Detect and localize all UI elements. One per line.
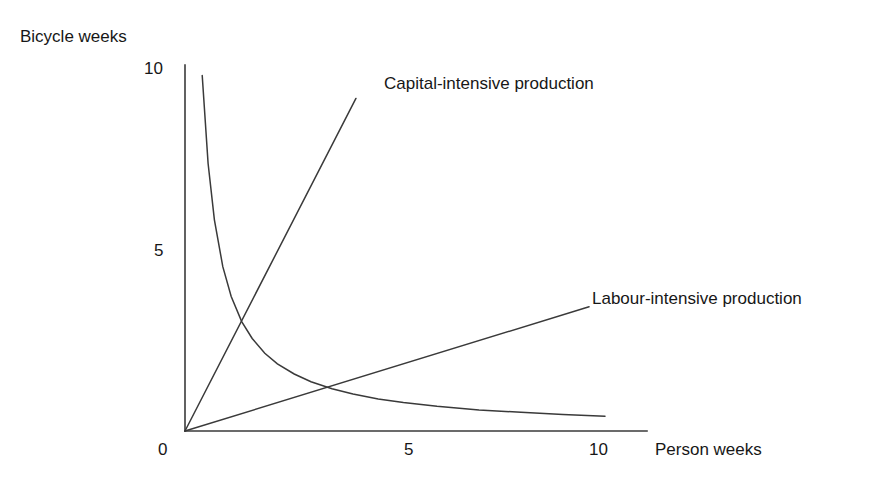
y-tick-label-5: 5 — [154, 242, 163, 259]
x-tick-label-5: 5 — [404, 441, 413, 458]
y-tick-label-10: 10 — [144, 60, 163, 77]
chart-plot-canvas — [0, 0, 878, 485]
x-tick-label-10: 10 — [589, 441, 608, 458]
annotation-capital-intensive-production: Capital-intensive production — [384, 75, 594, 92]
capital-intensive-line — [185, 98, 356, 431]
annotation-labour-intensive-production: Labour-intensive production — [592, 290, 802, 307]
x-tick-label-0: 0 — [158, 441, 167, 458]
x-axis-title: Person weeks — [655, 441, 762, 458]
chart-figure: Bicycle weeks Person weeks 10 5 0 5 10 C… — [0, 0, 878, 485]
y-axis-title: Bicycle weeks — [20, 28, 127, 45]
isoquant-curve — [202, 76, 605, 417]
